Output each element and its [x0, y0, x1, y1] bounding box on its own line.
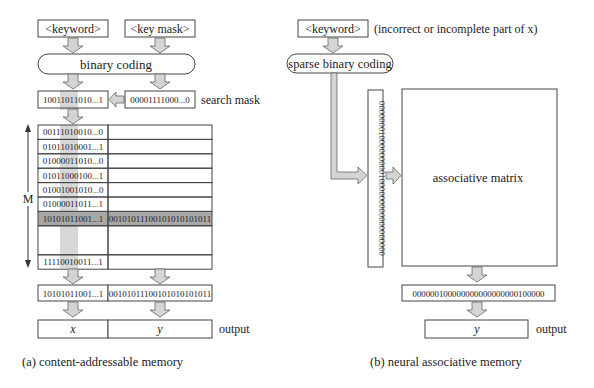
down-arrow-icon — [63, 109, 83, 124]
down-arrow-icon — [467, 267, 487, 282]
bent-arrow-icon — [331, 73, 367, 184]
key-cell-text: 11110010011...1 — [43, 257, 102, 267]
down-arrow-icon — [63, 269, 83, 284]
table-row: 01000011011...1 — [38, 197, 212, 211]
sparse-vector-value: 000000010000000001000000000000000000 — [377, 101, 387, 256]
down-arrow-icon — [323, 38, 343, 53]
sparse-coding-label: sparse binary coding — [288, 57, 392, 71]
value-cell — [108, 255, 212, 269]
down-arrow-icon — [467, 302, 487, 317]
key-cell-text: 00111010010...0 — [43, 127, 104, 137]
table-row: 01001001010...0 — [38, 183, 212, 197]
value-cell — [108, 154, 212, 168]
value-cell — [108, 197, 212, 211]
search-key-value: 10011011010...1 — [43, 95, 103, 105]
down-arrow-icon — [63, 38, 83, 53]
value-cell-text: 00101011100101010101011 — [109, 214, 212, 224]
table-row: 00111010010...0 — [38, 125, 212, 139]
up-arrowhead-icon — [25, 124, 31, 132]
value-cell — [108, 226, 212, 255]
down-arrow-icon — [150, 74, 170, 89]
result-value: 00101011100101010101011 — [109, 289, 212, 299]
down-arrow-icon — [150, 38, 170, 53]
caption-a: (a) content-addressable memory — [22, 355, 184, 369]
key-cell-text: 01011000100...1 — [43, 171, 103, 181]
associative-matrix-label: associative matrix — [433, 171, 524, 185]
keyword-note: (incorrect or incomplete part of x) — [374, 22, 538, 36]
keyword-label-b: <keyword> — [305, 22, 361, 36]
output-label-b: output — [536, 322, 567, 336]
panel-neural-associative-memory: <keyword> (incorrect or incomplete part … — [287, 20, 567, 369]
output-x-label: x — [69, 322, 76, 336]
key-cell-text: 01001001010...0 — [43, 185, 104, 195]
m-label: M — [23, 192, 34, 206]
output-y-label: y — [156, 322, 163, 336]
down-arrow-icon — [150, 302, 170, 317]
down-arrow-icon — [63, 74, 83, 89]
keyword-label: <keyword> — [45, 22, 101, 36]
output-label: output — [219, 322, 250, 336]
key-cell-text: 10101011001...1 — [43, 214, 103, 224]
table-row: 01011000100...1 — [38, 168, 212, 182]
left-arrow-icon — [109, 92, 124, 107]
table-row: 01011010001...1 — [38, 139, 212, 153]
key-cell-text: 01000011010...0 — [43, 156, 104, 166]
diagram-canvas: <keyword> <key mask> binary coding 10011… — [0, 0, 594, 388]
table-row: 11110010011...1 — [38, 255, 212, 269]
mask-value: 00001111000...0 — [130, 95, 190, 105]
output-vector-value: 000000100000000000000000100000 — [413, 289, 546, 299]
value-cell — [108, 139, 212, 153]
down-arrowhead-icon — [25, 260, 31, 268]
key-cell-text: 01000011011...1 — [43, 199, 103, 209]
output-y-label-b: y — [473, 322, 480, 336]
result-key-value: 10101011001...1 — [43, 289, 103, 299]
value-cell — [108, 183, 212, 197]
value-cell — [108, 168, 212, 182]
binary-coding-label: binary coding — [80, 57, 152, 72]
caption-b: (b) neural associative memory — [370, 355, 522, 369]
panel-content-addressable-memory: <keyword> <key mask> binary coding 10011… — [22, 20, 260, 369]
right-arrow-icon — [386, 167, 401, 184]
key-mask-label: <key mask> — [130, 22, 189, 36]
table-row: 01000011010...0 — [38, 154, 212, 168]
search-mask-label: search mask — [201, 93, 260, 107]
down-arrow-icon — [150, 269, 170, 284]
key-cell-text: 01011010001...1 — [43, 142, 103, 152]
down-arrow-icon — [63, 302, 83, 317]
table-row: 10101011001...100101011100101010101011 — [38, 211, 212, 225]
value-cell — [108, 125, 212, 139]
